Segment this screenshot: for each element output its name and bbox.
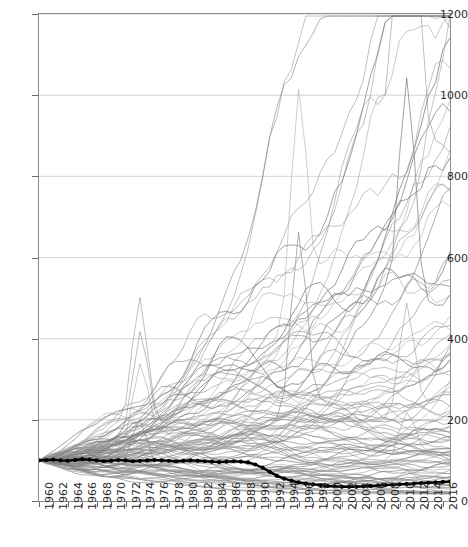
plot-area <box>38 13 451 502</box>
x-tick-mark <box>183 502 184 507</box>
y-tick-label: 600 <box>436 252 468 263</box>
gridlines <box>39 14 450 420</box>
y-tick-mark <box>32 176 38 177</box>
x-tick-mark <box>270 502 271 507</box>
x-tick-label: 2016 <box>448 482 459 510</box>
x-tick-mark <box>68 502 69 507</box>
x-tick-mark <box>226 502 227 507</box>
spaghetti-line-chart: 0200400600800100012001960196219641966196… <box>0 0 468 547</box>
y-tick-mark <box>32 14 38 15</box>
x-tick-mark <box>97 502 98 507</box>
y-tick-mark <box>32 339 38 340</box>
y-tick-mark <box>32 95 38 96</box>
y-tick-label: 1000 <box>436 90 468 101</box>
y-tick-label: 800 <box>436 171 468 182</box>
x-tick-mark <box>299 502 300 507</box>
x-tick-mark <box>428 502 429 507</box>
x-tick-mark <box>400 502 401 507</box>
x-tick-mark <box>111 502 112 507</box>
x-tick-mark <box>140 502 141 507</box>
x-tick-mark <box>443 502 444 507</box>
x-tick-mark <box>284 502 285 507</box>
x-tick-mark <box>169 502 170 507</box>
x-tick-mark <box>342 502 343 507</box>
y-tick-label: 400 <box>436 333 468 344</box>
x-tick-mark <box>82 502 83 507</box>
y-tick-label: 200 <box>436 414 468 425</box>
background-series-lines <box>39 16 450 494</box>
x-tick-mark <box>414 502 415 507</box>
y-tick-label: 1200 <box>436 9 468 20</box>
plot-svg <box>39 14 450 501</box>
x-tick-mark <box>154 502 155 507</box>
x-tick-mark <box>356 502 357 507</box>
x-tick-mark <box>255 502 256 507</box>
x-tick-mark <box>241 502 242 507</box>
x-tick-mark <box>371 502 372 507</box>
x-tick-mark <box>39 502 40 507</box>
x-tick-mark <box>313 502 314 507</box>
y-tick-mark <box>32 501 38 502</box>
x-tick-mark <box>53 502 54 507</box>
x-tick-mark <box>126 502 127 507</box>
x-tick-mark <box>198 502 199 507</box>
x-tick-mark <box>212 502 213 507</box>
y-tick-mark <box>32 258 38 259</box>
x-tick-mark <box>327 502 328 507</box>
y-tick-mark <box>32 420 38 421</box>
x-tick-mark <box>385 502 386 507</box>
